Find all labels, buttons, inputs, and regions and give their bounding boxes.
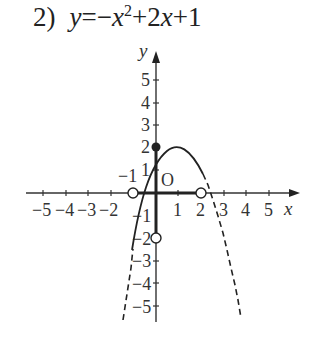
- y-axis-label: y: [137, 40, 148, 61]
- y-tick-label: 1: [141, 160, 150, 180]
- x-axis-arrow-icon: [289, 189, 300, 197]
- x-tick-label: −2: [99, 200, 118, 220]
- y-tick-label: −4: [132, 274, 151, 294]
- y-tick-label: −1: [132, 206, 151, 226]
- x-tick-label: 5: [264, 200, 273, 220]
- x-axis-label: x: [283, 198, 293, 219]
- parabola-dashed-right: [203, 174, 241, 318]
- y-tick-label: −3: [132, 251, 151, 271]
- filled-point: [152, 143, 161, 152]
- open-point: [196, 188, 206, 198]
- x-tick-label: 1: [173, 200, 182, 220]
- y-tick-label: 4: [141, 93, 150, 113]
- x-tick-label: −1: [118, 166, 137, 186]
- graph: −5 −4 −3 −2 −1 1 2 3 4 5 x 5 4 3 2 1 −1 …: [0, 0, 315, 338]
- y-tick-label: −5: [132, 297, 151, 317]
- open-point: [151, 233, 161, 243]
- x-tick-label: 3: [219, 200, 228, 220]
- y-axis-arrow-icon: [152, 51, 160, 63]
- y-tick-label: 5: [141, 70, 150, 90]
- x-tick-label: −5: [32, 200, 51, 220]
- x-tick-label: 2: [196, 200, 205, 220]
- origin-label: O: [161, 170, 174, 190]
- y-tick-label: 2: [141, 137, 150, 157]
- x-tick-label: −4: [55, 200, 74, 220]
- y-tick-label: 3: [141, 115, 150, 135]
- open-point: [128, 188, 138, 198]
- x-tick-label: 4: [241, 200, 250, 220]
- x-tick-label: −3: [77, 200, 96, 220]
